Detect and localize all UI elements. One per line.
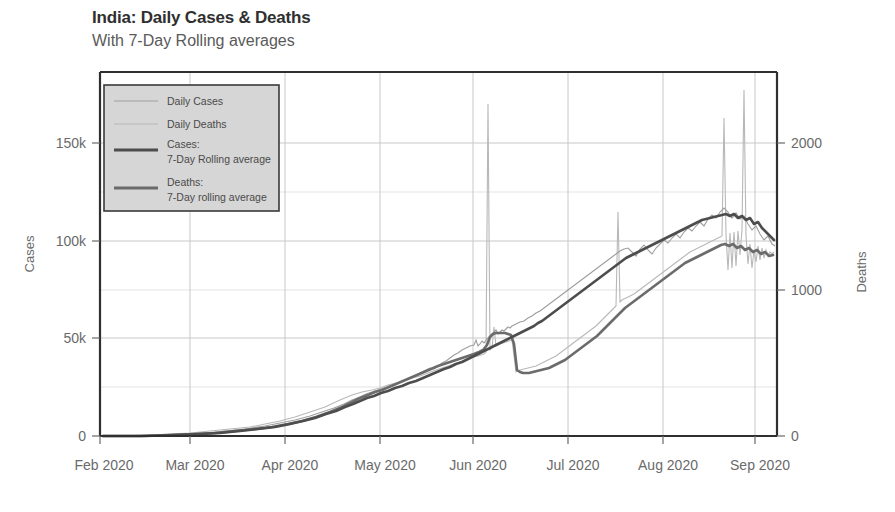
x-tick-label-jun: Jun 2020 bbox=[449, 457, 507, 473]
y2-tick-label-0: 0 bbox=[791, 428, 799, 444]
y-axis-left-ticks bbox=[92, 143, 100, 436]
y-tick-label-150k: 150k bbox=[56, 135, 87, 151]
y-axis-title-cases: Cases bbox=[22, 235, 37, 272]
chart-figure: India: Daily Cases & Deaths With 7-Day R… bbox=[0, 0, 895, 512]
y2-tick-label-2000: 2000 bbox=[791, 135, 822, 151]
chart-canvas: 150k 100k 50k 0 Cases 2000 1000 0 Deaths… bbox=[0, 0, 895, 512]
legend-label-daily-cases: Daily Cases bbox=[167, 95, 223, 107]
x-tick-label-apr: Apr 2020 bbox=[262, 457, 319, 473]
x-tick-label-jul: Jul 2020 bbox=[547, 457, 600, 473]
y2-tick-label-1000: 1000 bbox=[791, 282, 822, 298]
legend-label-daily-deaths: Daily Deaths bbox=[167, 118, 227, 130]
legend-label-deaths-rolling-line2: 7-Day rolling average bbox=[167, 191, 267, 203]
legend-label-deaths-rolling-line1: Deaths: bbox=[167, 176, 203, 188]
legend-label-cases-rolling-line1: Cases: bbox=[167, 138, 200, 150]
legend-label-cases-rolling-line2: 7-Day Rolling average bbox=[167, 153, 271, 165]
x-tick-label-sep: Sep 2020 bbox=[730, 457, 790, 473]
x-axis-ticks bbox=[100, 436, 755, 444]
y-axis-right-ticks bbox=[777, 143, 785, 436]
x-tick-label-mar: Mar 2020 bbox=[165, 457, 224, 473]
y-tick-label-0: 0 bbox=[78, 428, 86, 444]
y-tick-label-100k: 100k bbox=[56, 233, 87, 249]
chart-legend[interactable]: Daily Cases Daily Deaths Cases: 7-Day Ro… bbox=[104, 85, 279, 211]
y-axis-title-deaths: Deaths bbox=[854, 251, 869, 293]
x-tick-label-aug: Aug 2020 bbox=[638, 457, 698, 473]
x-tick-label-feb: Feb 2020 bbox=[74, 457, 133, 473]
x-tick-label-may: May 2020 bbox=[354, 457, 416, 473]
y-tick-label-50k: 50k bbox=[63, 330, 87, 346]
